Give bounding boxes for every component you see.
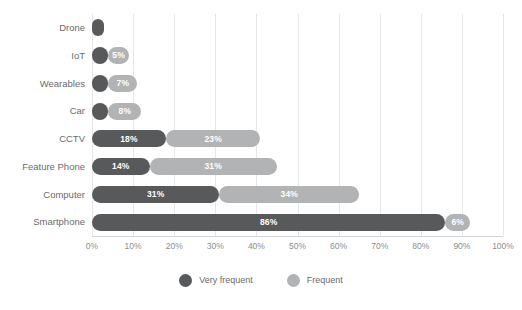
bar-segment (92, 103, 108, 120)
bar-value-label: 8% (119, 107, 132, 116)
bar-row: Computer31%34% (92, 185, 503, 203)
category-label-car: Car (70, 106, 85, 116)
category-label-wearables: Wearables (40, 79, 85, 89)
category-label-drone: Drone (59, 23, 85, 33)
bar-chart: DroneIoT5%Wearables7%Car8%CCTV18%23%Feat… (0, 0, 522, 310)
legend-swatch-icon (287, 274, 300, 287)
x-tick-50%: 50% (278, 241, 318, 251)
x-tick-90%: 90% (442, 241, 482, 251)
legend-label: Frequent (307, 276, 343, 285)
legend-item[interactable]: Very frequent (179, 274, 253, 287)
bar-segment: 23% (166, 130, 261, 147)
x-axis-line (92, 236, 503, 237)
gridline-100% (503, 14, 504, 236)
category-label-cctv: CCTV (59, 134, 85, 144)
x-tick-100%: 100% (483, 241, 522, 251)
bar-row: IoT5% (92, 47, 503, 65)
bar-segment: 7% (108, 75, 137, 92)
bar-value-label: 31% (147, 190, 165, 199)
bar-row: Smartphone86%6% (92, 213, 503, 231)
x-tick-80%: 80% (401, 241, 441, 251)
bar-segment (92, 75, 108, 92)
bar-row: Wearables7% (92, 74, 503, 92)
bar-value-label: 18% (120, 135, 138, 144)
bar-value-label: 86% (260, 218, 278, 227)
x-tick-70%: 70% (360, 241, 400, 251)
bar-value-label: 14% (112, 162, 130, 171)
plot-area: DroneIoT5%Wearables7%Car8%CCTV18%23%Feat… (92, 14, 503, 236)
bar-value-label: 6% (451, 218, 464, 227)
bar-segment: 31% (92, 186, 219, 203)
bar-segment: 18% (92, 130, 166, 147)
bar-segment (92, 19, 104, 36)
chart-legend: Very frequentFrequent (0, 274, 522, 287)
legend-label: Very frequent (199, 276, 253, 285)
bar-value-label: 34% (280, 190, 298, 199)
bar-segment: 5% (108, 47, 129, 64)
bar-value-label: 31% (204, 162, 222, 171)
bar-row: Car8% (92, 102, 503, 120)
bar-value-label: 5% (112, 51, 125, 60)
x-tick-60%: 60% (319, 241, 359, 251)
bar-segment: 8% (108, 103, 141, 120)
category-label-iot: IoT (71, 51, 85, 61)
bar-row: Feature Phone14%31% (92, 158, 503, 176)
x-tick-0%: 0% (72, 241, 112, 251)
legend-item[interactable]: Frequent (287, 274, 343, 287)
category-label-computer: Computer (43, 190, 85, 200)
bar-row: Drone (92, 19, 503, 37)
x-tick-40%: 40% (236, 241, 276, 251)
bar-segment: 34% (219, 186, 359, 203)
legend-swatch-icon (179, 274, 192, 287)
x-tick-20%: 20% (154, 241, 194, 251)
x-tick-30%: 30% (195, 241, 235, 251)
bar-value-label: 23% (204, 135, 222, 144)
bar-row: CCTV18%23% (92, 130, 503, 148)
bar-segment: 6% (445, 214, 470, 231)
bar-segment (92, 47, 108, 64)
bar-segment: 31% (150, 158, 277, 175)
category-label-smartphone: Smartphone (33, 217, 85, 227)
bar-segment: 14% (92, 158, 150, 175)
bar-value-label: 7% (116, 79, 129, 88)
category-label-feature-phone: Feature Phone (22, 162, 85, 172)
bar-segment: 86% (92, 214, 445, 231)
x-tick-10%: 10% (113, 241, 153, 251)
